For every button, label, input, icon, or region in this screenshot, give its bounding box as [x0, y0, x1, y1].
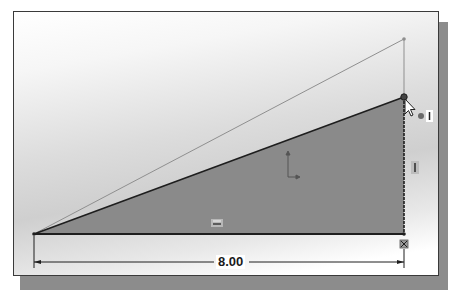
vertex-bottom-right[interactable]	[402, 232, 406, 236]
horizontal-relation-icon[interactable]	[211, 219, 223, 227]
vertex-bottom-left[interactable]	[32, 232, 36, 236]
dimension-arrow-right	[397, 260, 404, 264]
vertical-relation-icon[interactable]	[411, 161, 419, 174]
dimension-value-label[interactable]: 8.00	[216, 255, 245, 269]
dimension-arrow-left	[34, 260, 41, 264]
ghost-apex-point[interactable]	[402, 37, 406, 41]
vertex-top-right[interactable]	[401, 94, 407, 100]
cursor-relation-feedback	[418, 110, 433, 122]
arrow-cursor-icon	[405, 99, 415, 116]
fixed-relation-icon[interactable]	[400, 240, 408, 248]
